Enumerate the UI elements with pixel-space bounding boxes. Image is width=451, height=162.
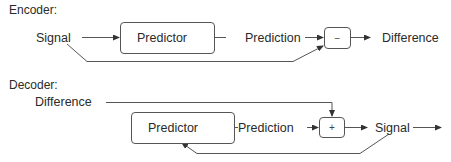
decoder-difference-label: Difference [35,95,92,109]
encoder-predictor-label: Predictor [137,31,187,45]
encoder-difference-label: Difference [382,31,439,45]
decoder-add-node: + [319,117,345,138]
decoder-prediction-label: Prediction [238,121,294,135]
decoder-signal-label: Signal [375,121,410,135]
encoder-prediction-label: Prediction [245,31,301,45]
encoder-predictor-box: Predictor [120,22,215,54]
minus-icon: − [335,33,341,44]
encoder-signal-label: Signal [36,31,71,45]
encoder-section-title: Encoder: [9,3,57,17]
decoder-section-title: Decoder: [9,78,58,92]
encoder-subtract-node: − [324,27,351,49]
decoder-predictor-box: Predictor [131,112,235,144]
plus-icon: + [329,122,335,133]
decoder-predictor-label: Predictor [148,121,198,135]
